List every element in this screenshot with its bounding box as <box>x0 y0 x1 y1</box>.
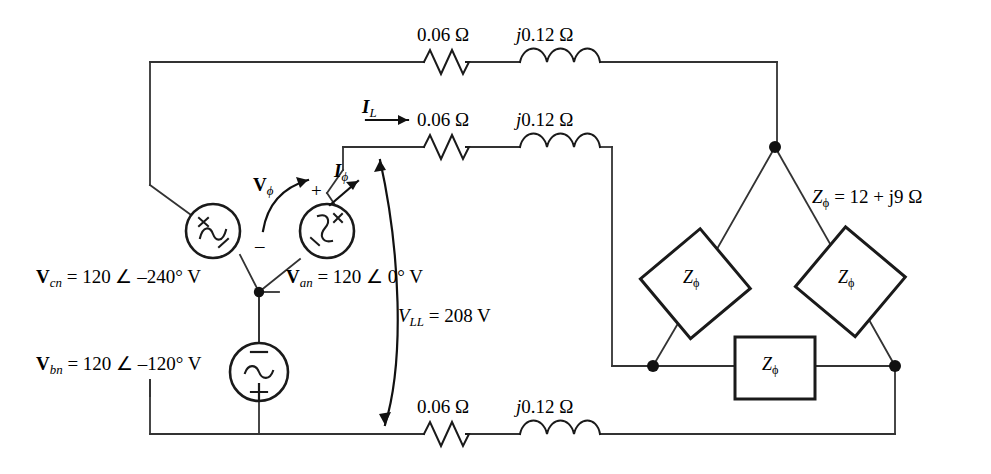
impedance-box-label-left: Zϕ <box>683 267 699 288</box>
source-label-vcn: Vcn = 120 ∠ –240° V <box>36 265 201 288</box>
inductor-bottom <box>520 421 600 435</box>
bottom-inductor-label: j0.12 Ω <box>516 396 573 418</box>
impedance-box-label-right: Zϕ <box>838 267 854 288</box>
current-arrow-Iphi <box>330 181 358 205</box>
annotation-vphi: Vϕ <box>253 174 273 196</box>
resistor-top <box>424 50 469 74</box>
bottom-resistor-label: 0.06 Ω <box>417 396 469 418</box>
middle-resistor-label: 0.06 Ω <box>417 109 469 131</box>
resistor-middle <box>424 135 469 159</box>
inductor-middle <box>520 134 600 148</box>
node-delta-apex <box>769 141 781 153</box>
middle-inductor-label: j0.12 Ω <box>516 109 573 131</box>
current-label-IL: IL <box>362 96 377 118</box>
voltage-arc-VLL <box>374 160 398 425</box>
source-label-vbn: Vbn = 120 ∠ –120° V <box>36 352 202 375</box>
circuit-diagram-canvas: 0.06 Ω j0.12 Ω 0.06 Ω j0.12 Ω IL 0.06 Ω … <box>0 0 991 474</box>
annotation-vphi-plus: + <box>311 180 322 202</box>
inductor-top <box>520 49 600 63</box>
middle-line-wire <box>327 147 653 366</box>
circuit-schematic-svg <box>0 0 991 474</box>
top-inductor-label: j0.12 Ω <box>516 24 573 46</box>
annotation-vll: VLL = 208 V <box>398 305 491 327</box>
resistor-bottom <box>424 422 469 446</box>
voltage-source-van <box>300 204 354 258</box>
annotation-iphi: Iϕ <box>334 160 348 182</box>
top-resistor-label: 0.06 Ω <box>417 24 469 46</box>
top-line-wire <box>150 62 777 231</box>
annotation-vphi-minus: – <box>255 235 265 257</box>
load-impedance-label: Zϕ = 12 + j9 Ω <box>812 186 922 208</box>
node-neutral <box>254 287 264 297</box>
voltage-source-vcn <box>186 204 240 258</box>
impedance-box-label-bottom: Zϕ <box>762 354 778 375</box>
node-delta-left <box>647 360 659 372</box>
source-label-van: Van = 120 ∠ 0° V <box>286 265 423 288</box>
node-delta-right <box>889 360 901 372</box>
